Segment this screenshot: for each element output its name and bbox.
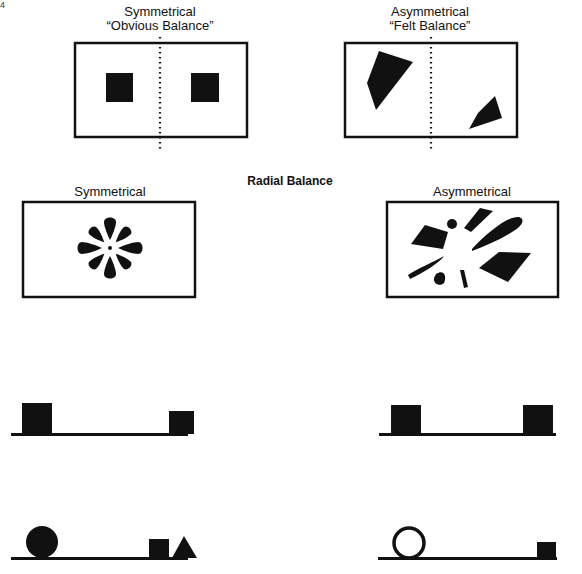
- large-quad: [367, 51, 413, 110]
- radial-asymmetrical-panel: [387, 202, 558, 297]
- seesaw-balanced-squares: [379, 405, 556, 436]
- balance-diagram: [0, 0, 582, 574]
- left-square: [106, 73, 133, 102]
- symmetrical-balance-panel: [75, 37, 247, 151]
- seesaw-open-circle-vs-square: [378, 528, 557, 560]
- right-square: [191, 73, 219, 102]
- small-quad: [469, 96, 502, 129]
- seesaw-unbalanced-squares: [11, 403, 194, 436]
- radial-symmetrical-panel: [23, 202, 195, 297]
- seesaw-circle-vs-square-triangle: [11, 526, 197, 560]
- asymmetrical-balance-panel: [345, 37, 517, 151]
